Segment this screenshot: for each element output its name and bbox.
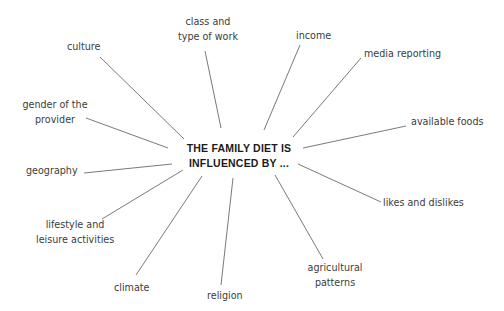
factor-available-foods: available foods <box>411 115 484 130</box>
center-title-line-1: THE FAMILY DIET IS <box>178 141 300 156</box>
factor-geography: geography <box>26 164 78 179</box>
factor-label: leisure activities <box>36 233 114 248</box>
connector-geography <box>84 164 172 173</box>
connector-agricultural-patterns <box>275 175 323 259</box>
connector-likes-and-dislikes <box>298 164 381 202</box>
connector-media-reporting <box>293 58 361 137</box>
center-title-line-2: INFLUENCED BY ... <box>178 156 300 171</box>
factor-label: likes and dislikes <box>383 196 464 211</box>
connector-available-foods <box>303 126 406 148</box>
factor-income: income <box>296 29 331 44</box>
factor-agricultural-patterns: agricultural patterns <box>303 261 367 290</box>
factor-label: gender of the <box>22 98 88 113</box>
factor-class-and-type-of-work: class and type of work <box>176 15 240 44</box>
spider-diagram: THE FAMILY DIET IS INFLUENCED BY ... cul… <box>0 0 504 311</box>
factor-label: agricultural <box>303 261 367 276</box>
connector-religion <box>221 178 233 285</box>
factor-lifestyle-and-leisure-activities: lifestyle and leisure activities <box>36 218 114 247</box>
factor-media-reporting: media reporting <box>364 47 441 62</box>
factor-label: available foods <box>411 115 484 130</box>
factor-label: culture <box>67 40 101 55</box>
connector-culture <box>100 57 184 139</box>
factor-label: class and <box>176 15 240 30</box>
factor-label: climate <box>114 281 150 296</box>
connector-gender-of-the-provider <box>86 118 168 148</box>
factor-likes-and-dislikes: likes and dislikes <box>383 196 464 211</box>
factor-gender-of-the-provider: gender of the provider <box>22 98 88 127</box>
connector-lifestyle-and-leisure-activities <box>102 170 183 219</box>
connector-class-and-type-of-work <box>205 51 221 128</box>
connector-income <box>264 45 300 130</box>
factor-label: provider <box>22 113 88 128</box>
factor-label: type of work <box>176 30 240 45</box>
center-title: THE FAMILY DIET IS INFLUENCED BY ... <box>178 141 300 171</box>
factor-label: religion <box>207 289 243 304</box>
factor-religion: religion <box>207 289 243 304</box>
factor-label: patterns <box>303 276 367 291</box>
factor-label: income <box>296 29 331 44</box>
factor-label: lifestyle and <box>36 218 114 233</box>
factor-culture: culture <box>67 40 101 55</box>
connector-climate <box>136 176 202 275</box>
factor-label: media reporting <box>364 47 441 62</box>
factor-climate: climate <box>114 281 150 296</box>
factor-label: geography <box>26 164 78 179</box>
